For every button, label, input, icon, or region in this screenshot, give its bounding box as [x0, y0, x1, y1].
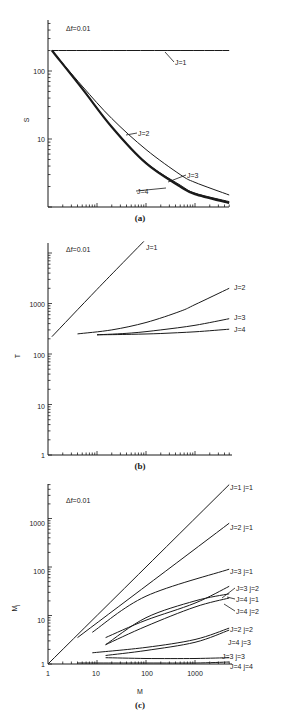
panel-c: 10001001011101001000MMjΔf=0.01(c)J=1 j=1… — [11, 484, 259, 711]
series-line-j-4 — [52, 51, 229, 203]
series-line-j-3-j-3 — [106, 658, 230, 659]
series-line-j-4-j-4 — [78, 662, 230, 663]
delta-f-annotation: Δf=0.01 — [66, 25, 90, 32]
series-line-j-2-j-2 — [92, 628, 229, 653]
label-leader-arrow — [168, 175, 186, 182]
panel-caption: (c) — [135, 700, 145, 710]
series-label: J=2 — [234, 284, 246, 291]
figure-canvas: 10010SΔf=0.01(a)J=1J=2J=3J=4 1000100101T… — [0, 0, 282, 713]
y-tick-label: 1000 — [29, 520, 45, 527]
panel-caption: (b) — [135, 461, 146, 471]
label-leader-arrow — [224, 604, 235, 611]
y-tick-label: 1000 — [29, 301, 45, 308]
y-axis-label: S — [23, 117, 30, 122]
series-line-j-3-j-1 — [92, 569, 229, 632]
x-tick-label: 10 — [92, 670, 100, 677]
series-line-j-2 — [52, 51, 229, 196]
y-tick-label: 1 — [41, 661, 45, 668]
series-label: J=1 j=1 — [230, 484, 253, 492]
panel-caption: (a) — [135, 213, 146, 223]
series-line-j-2-j-1 — [78, 523, 230, 637]
series-line-j-1-j-1 — [48, 485, 229, 664]
series-label: J=3 — [187, 172, 199, 179]
y-axis-label-subscript: j — [14, 605, 20, 607]
y-tick-label: 100 — [33, 568, 45, 575]
series-label: J=2 — [138, 130, 150, 137]
label-leader-arrow — [165, 52, 174, 62]
series-line-j-1 — [52, 241, 144, 336]
series-label: J=4 j=3 — [228, 639, 251, 647]
y-tick-label: 10 — [37, 403, 45, 410]
y-tick-label: 100 — [33, 68, 45, 75]
y-tick-label: 100 — [33, 352, 45, 359]
series-label: J=1 — [175, 59, 187, 66]
series-line-j-3-j-2 — [106, 586, 230, 637]
y-tick-label: 10 — [37, 136, 45, 143]
series-label: J=3 — [234, 314, 246, 321]
series-label: J=2 j=1 — [230, 524, 253, 532]
y-axis-label: Mj — [11, 605, 20, 612]
y-tick-label: 1 — [41, 452, 45, 459]
delta-f-annotation: Δf=0.01 — [66, 497, 90, 504]
series-line-j-3 — [97, 319, 229, 335]
x-tick-label: 1 — [46, 670, 50, 677]
series-label: J=4 j=2 — [236, 608, 259, 616]
x-tick-label: 1000 — [187, 670, 203, 677]
series-line-j-2 — [78, 288, 230, 334]
series-line-j-4-j-3 — [106, 630, 230, 655]
series-label: J=3 j=1 — [230, 568, 253, 576]
panel-b: 1000100101TΔf=0.01(b)J=1J=2J=3J=4 — [14, 241, 246, 471]
x-tick-label: 100 — [141, 670, 153, 677]
series-label: J=1 — [146, 244, 158, 251]
series-label: J=4 j=4 — [230, 663, 253, 671]
series-line-j-3 — [52, 51, 229, 202]
delta-f-annotation: Δf=0.01 — [66, 246, 90, 253]
series-label: J=4 — [234, 326, 246, 333]
series-label: J=3 j=2 — [236, 585, 259, 593]
y-tick-label: 10 — [37, 617, 45, 624]
series-label: J=2 j=2 — [230, 626, 253, 634]
x-axis-label: M — [137, 688, 143, 695]
series-label: J=4 j=1 — [236, 596, 259, 604]
series-label: J=3 j=3 — [222, 653, 245, 661]
panel-a: 10010SΔf=0.01(a)J=1J=2J=3J=4 — [23, 20, 229, 223]
y-axis-label: T — [14, 353, 21, 358]
